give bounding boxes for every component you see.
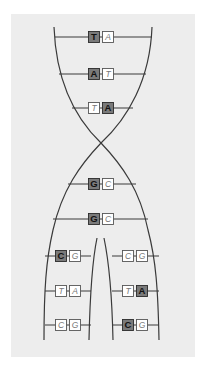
base-pair: TA: [72, 102, 133, 113]
base-letter: G: [139, 320, 146, 330]
base-letter: G: [72, 320, 79, 330]
base-pair: CG: [45, 320, 91, 331]
dna-replication-diagram: TAATTAGCGCCGTACGCGTACG: [0, 0, 198, 371]
base-pair: TA: [55, 31, 152, 42]
base-letter: C: [125, 319, 132, 330]
base-letter: A: [91, 68, 98, 79]
base-letter: C: [125, 251, 132, 261]
base-pair: TA: [45, 286, 91, 297]
strand-inner-right: [104, 238, 113, 340]
base-letter: A: [105, 102, 112, 113]
base-letter: T: [105, 69, 111, 79]
base-letter: G: [72, 251, 79, 261]
base-letter: C: [58, 250, 65, 261]
base-pair: GC: [53, 213, 148, 224]
base-letter: A: [104, 32, 111, 42]
base-letter: C: [105, 214, 112, 224]
base-pair: CG: [112, 319, 159, 330]
base-pair: CG: [112, 251, 159, 262]
base-letter: G: [139, 251, 146, 261]
base-letter: A: [71, 286, 78, 296]
base-pair: TA: [112, 285, 159, 296]
base-letter: G: [90, 178, 97, 189]
base-pair: GC: [68, 178, 136, 189]
base-letter: T: [91, 31, 97, 42]
base-pair: CG: [45, 250, 91, 261]
base-pair: AT: [59, 68, 146, 79]
base-letter: T: [58, 286, 64, 296]
base-letter: T: [125, 286, 131, 296]
base-letter: T: [91, 103, 97, 113]
base-letter: A: [139, 285, 146, 296]
base-letter: G: [90, 213, 97, 224]
base-letter: C: [58, 320, 65, 330]
base-letter: C: [105, 179, 112, 189]
